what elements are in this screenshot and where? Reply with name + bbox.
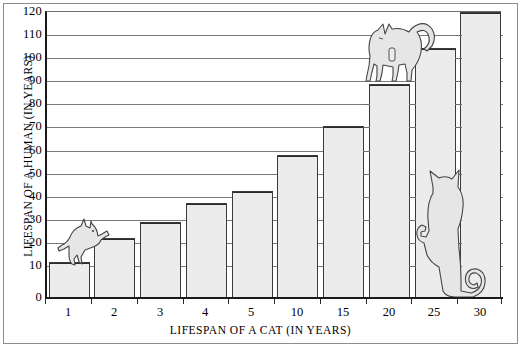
edge-notch — [363, 104, 370, 105]
x-tick-label-5: 5 — [231, 305, 271, 320]
x-axis-title: LIFESPAN OF A CAT (IN YEARS) — [0, 324, 521, 336]
y-tick-label-120: 120 — [2, 5, 42, 18]
y-tick-label-10: 10 — [2, 259, 42, 272]
y-tick-label-100: 100 — [2, 51, 42, 64]
edge-notch — [409, 151, 416, 152]
bar-10[interactable] — [277, 155, 318, 298]
x-tick-mark — [411, 299, 412, 304]
y-tick-label-80: 80 — [2, 97, 42, 110]
x-tick-mark — [45, 299, 46, 304]
x-tick-label-20: 20 — [369, 305, 409, 320]
cat-illustration-climbing-bar-1 — [57, 215, 111, 270]
x-tick-mark — [457, 299, 458, 304]
x-tick-mark — [228, 299, 229, 304]
x-tick-label-25: 25 — [414, 305, 454, 320]
x-tick-mark — [501, 299, 502, 304]
bar-3[interactable] — [140, 222, 181, 298]
y-tick-label-40: 40 — [2, 190, 42, 203]
edge-notch — [363, 243, 370, 244]
x-tick-mark — [320, 299, 321, 304]
y-tick-label-50: 50 — [2, 167, 42, 180]
edge-notch — [455, 127, 462, 128]
x-tick-mark — [137, 299, 138, 304]
x-tick-mark — [91, 299, 92, 304]
edge-notch — [363, 151, 370, 152]
edge-notch — [455, 104, 462, 105]
x-tick-label-10: 10 — [277, 305, 317, 320]
bar-5[interactable] — [232, 191, 273, 298]
edge-notch — [363, 266, 370, 267]
x-tick-mark — [274, 299, 275, 304]
cat-illustration-standing-on-bar-20 — [363, 18, 463, 86]
edge-notch — [363, 197, 370, 198]
edge-notch — [363, 127, 370, 128]
edge-notch — [363, 174, 370, 175]
edge-notch — [455, 151, 462, 152]
y-tick-label-30: 30 — [2, 213, 42, 226]
edge-notch — [363, 220, 370, 221]
y-tick-label-0: 0 — [2, 291, 42, 304]
x-tick-label-3: 3 — [140, 305, 180, 320]
y-tick-label-90: 90 — [2, 74, 42, 87]
cat-illustration-sitting-beside-bar-30 — [415, 167, 487, 299]
x-tick-label-4: 4 — [185, 305, 225, 320]
x-tick-mark — [366, 299, 367, 304]
x-tick-label-15: 15 — [323, 305, 363, 320]
edge-notch — [409, 104, 416, 105]
y-tick-label-70: 70 — [2, 120, 42, 133]
edge-notch — [409, 127, 416, 128]
x-tick-label-1: 1 — [48, 305, 88, 320]
bar-15[interactable] — [323, 126, 364, 298]
bar-4[interactable] — [186, 203, 227, 298]
chart-page: LIFESPAN OF A HUMAN (IN YEARS) 120 110 1… — [0, 0, 521, 347]
x-tick-label-2: 2 — [94, 305, 134, 320]
bar-20[interactable] — [369, 84, 410, 299]
plot-area — [45, 11, 501, 298]
y-tick-label-110: 110 — [2, 28, 42, 41]
x-tick-label-30: 30 — [460, 305, 500, 320]
y-tick-label-20: 20 — [2, 236, 42, 249]
y-axis-ticks: 120 110 100 90 80 70 60 50 40 30 20 10 0 — [0, 0, 42, 347]
x-tick-mark — [183, 299, 184, 304]
y-tick-label-60: 60 — [2, 144, 42, 157]
